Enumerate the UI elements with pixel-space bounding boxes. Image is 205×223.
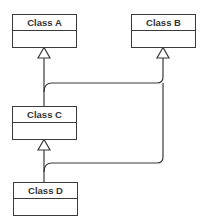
diagram-canvas: Class A Class B Class C Class D <box>0 0 205 223</box>
edge-c-to-b <box>44 58 163 92</box>
generalization-arrow-a <box>38 48 50 59</box>
class-c-name: Class C <box>13 107 76 123</box>
class-c[interactable]: Class C <box>12 106 77 140</box>
class-a-name: Class A <box>13 15 76 31</box>
class-b[interactable]: Class B <box>131 14 196 48</box>
class-d-name: Class D <box>14 183 77 199</box>
class-d[interactable]: Class D <box>13 182 78 216</box>
generalization-arrow-c <box>38 140 50 151</box>
class-b-name: Class B <box>132 15 195 31</box>
class-a[interactable]: Class A <box>12 14 77 48</box>
generalization-arrow-b <box>157 48 169 59</box>
